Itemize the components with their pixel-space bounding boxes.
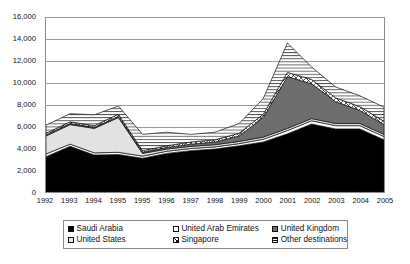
legend-label: United Arab Emirates: [181, 223, 258, 234]
legend-item-singapore[interactable]: Singapore: [173, 234, 272, 245]
y-tick-label: 14,000: [0, 35, 36, 43]
y-tick-label: 4,000: [0, 145, 36, 153]
x-tick-label: 2005: [368, 196, 402, 206]
y-tick-label: 8,000: [0, 101, 36, 109]
legend-swatch-icon: [173, 237, 179, 243]
y-tick-label: 2,000: [0, 167, 36, 175]
legend-item-saudi-arabia[interactable]: Saudi Arabia: [68, 223, 173, 234]
y-tick-label: 6,000: [0, 123, 36, 131]
y-tick-label: 10,000: [0, 79, 36, 87]
legend-row: United States Singapore Other destinatio…: [68, 234, 344, 245]
legend-item-united-kingdom[interactable]: United Kingdom: [272, 223, 344, 234]
legend-label: United States: [77, 234, 126, 245]
legend-swatch-icon: [68, 237, 74, 243]
legend-item-united-arab-emirates[interactable]: United Arab Emirates: [173, 223, 272, 234]
legend-item-united-states[interactable]: United States: [68, 234, 173, 245]
legend-swatch-icon: [173, 226, 179, 232]
legend-swatch-icon: [272, 226, 278, 232]
legend-swatch-icon: [68, 226, 74, 232]
legend-label: Other destinations: [281, 234, 347, 245]
legend-label: Saudi Arabia: [77, 223, 123, 234]
chart-legend: Saudi Arabia United Arab Emirates United…: [63, 220, 348, 249]
x-axis-tick-labels: 1992199319941995199519961997199819992000…: [45, 196, 385, 208]
legend-row: Saudi Arabia United Arab Emirates United…: [68, 223, 344, 234]
legend-swatch-icon: [272, 237, 278, 243]
legend-label: United Kingdom: [281, 223, 339, 234]
y-tick-label: 12,000: [0, 57, 36, 65]
area-series-group: [46, 18, 384, 192]
plot-area: [45, 17, 385, 193]
legend-item-other-destinations[interactable]: Other destinations: [272, 234, 344, 245]
y-tick-label: 16,000: [0, 13, 36, 21]
stacked-area-chart: 16,000 14,000 12,000 10,000 8,000 6,000 …: [0, 0, 410, 264]
legend-label: Singapore: [181, 234, 218, 245]
